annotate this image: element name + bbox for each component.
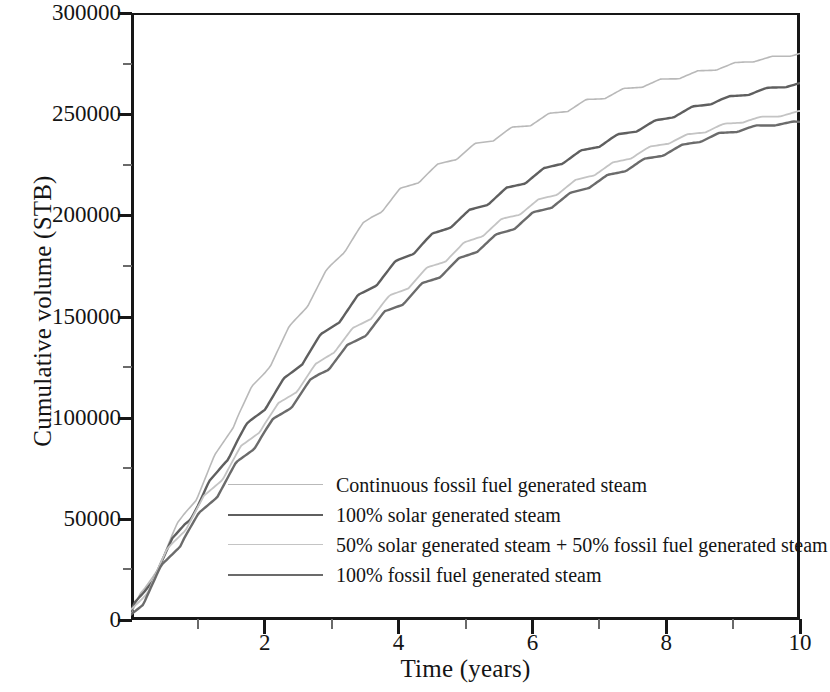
y-tick-label: 50000 [1,507,121,530]
x-tick-minor [732,619,734,629]
x-tick-minor [331,619,333,629]
x-tick-label: 6 [502,631,562,654]
legend-line-swatch [228,544,323,545]
legend-item: 100% solar generated steam [228,500,803,530]
legend-label: Continuous fossil fuel generated steam [336,470,647,500]
legend-label: 100% fossil fuel generated steam [336,560,601,590]
y-tick-major [118,12,132,15]
x-tick-minor [197,619,199,629]
legend-label: 100% solar generated steam [336,500,561,530]
chart-legend: Continuous fossil fuel generated steam10… [228,470,803,590]
y-axis-tick-labels: 050000100000150000200000250000300000 [0,0,121,692]
legend-line-swatch [228,574,323,576]
y-tick-major [118,518,132,521]
x-tick-label: 4 [369,631,429,654]
y-tick-major [118,417,132,420]
x-tick-minor [598,619,600,629]
y-tick-major [118,619,132,622]
x-axis-title: Time (years) [131,655,800,683]
x-tick-label: 10 [770,631,830,654]
legend-item: Continuous fossil fuel generated steam [228,470,803,500]
y-tick-major [118,316,132,319]
x-tick-label: 2 [235,631,295,654]
y-tick-label: 250000 [1,102,121,125]
y-tick-label: 0 [1,608,121,631]
legend-line-swatch [228,484,323,485]
x-tick-minor [465,619,467,629]
legend-item: 50% solar generated steam + 50% fossil f… [228,530,803,560]
y-tick-label: 100000 [1,406,121,429]
legend-label: 50% solar generated steam + 50% fossil f… [336,530,828,560]
legend-item: 100% fossil fuel generated steam [228,560,803,590]
x-tick-label: 8 [636,631,696,654]
y-tick-major [118,214,132,217]
legend-line-swatch [228,514,323,516]
y-tick-label: 200000 [1,203,121,226]
y-tick-label: 300000 [1,1,121,24]
y-tick-label: 150000 [1,305,121,328]
y-tick-major [118,113,132,116]
